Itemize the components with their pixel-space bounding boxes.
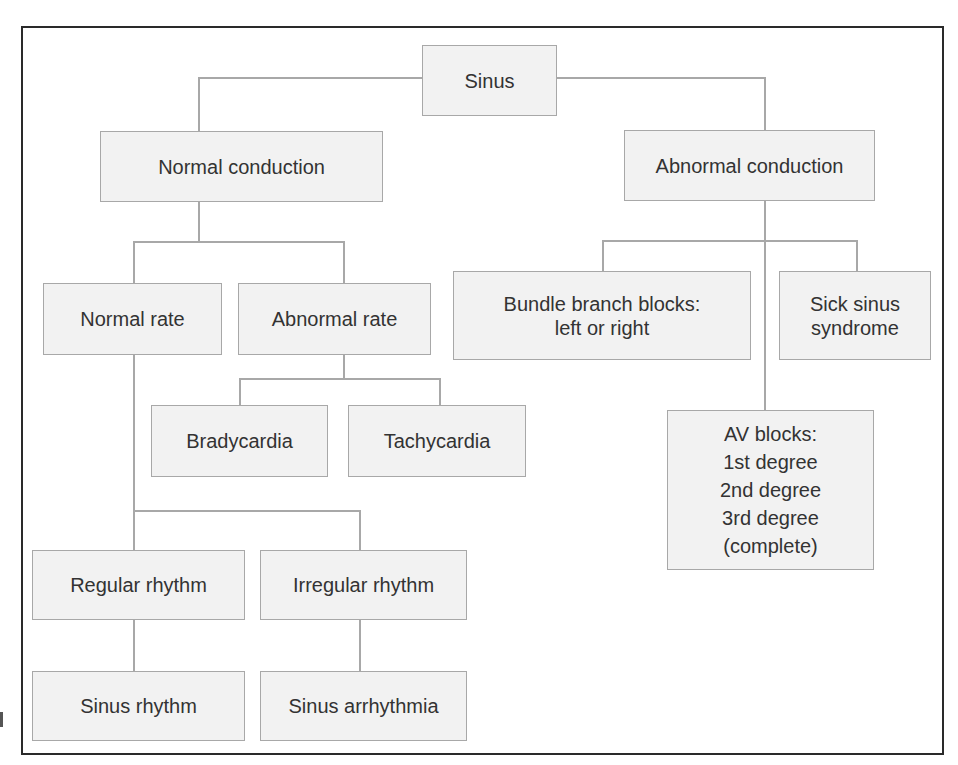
node-abnormal-rate: Abnormal rate — [238, 283, 431, 355]
connector — [133, 355, 135, 550]
node-irregular-rhythm: Irregular rhythm — [260, 550, 467, 620]
connector — [239, 378, 440, 380]
connector — [239, 378, 241, 405]
node-bundle-branch-blocks: Bundle branch blocks: left or right — [453, 271, 751, 360]
connector — [198, 202, 200, 241]
connector — [198, 77, 422, 79]
connector — [764, 201, 766, 410]
connector — [359, 620, 361, 671]
connector — [133, 510, 360, 512]
node-normal-conduction: Normal conduction — [100, 131, 383, 202]
connector — [343, 355, 345, 378]
node-tachycardia: Tachycardia — [348, 405, 526, 477]
connector — [764, 77, 766, 130]
connector — [133, 241, 344, 243]
connector — [133, 241, 135, 283]
node-abnormal-conduction: Abnormal conduction — [624, 130, 875, 201]
cropped-glyph-fragment — [0, 712, 3, 727]
connector — [557, 77, 765, 79]
node-regular-rhythm: Regular rhythm — [32, 550, 245, 620]
connector — [198, 77, 200, 131]
connector — [856, 240, 858, 271]
connector — [602, 240, 857, 242]
connector — [133, 620, 135, 671]
node-normal-rate: Normal rate — [43, 283, 222, 355]
connector — [439, 378, 441, 405]
node-sinus-arrhythmia: Sinus arrhythmia — [260, 671, 467, 741]
connector — [343, 241, 345, 283]
connector — [359, 510, 361, 550]
node-sinus-rhythm: Sinus rhythm — [32, 671, 245, 741]
node-sinus: Sinus — [422, 45, 557, 116]
node-sick-sinus-syndrome: Sick sinus syndrome — [779, 271, 931, 360]
node-av-blocks: AV blocks: 1st degree 2nd degree 3rd deg… — [667, 410, 874, 570]
connector — [602, 240, 604, 271]
node-bradycardia: Bradycardia — [151, 405, 328, 477]
